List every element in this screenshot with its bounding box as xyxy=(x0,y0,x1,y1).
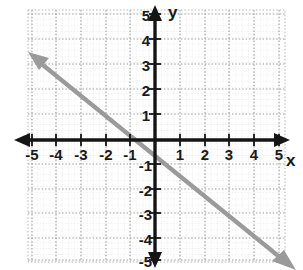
coordinate-plane-graph: -5 -4 -3 -2 -1 1 2 3 4 5 5 4 3 2 1 -1 -2… xyxy=(0,0,303,270)
y-tick-label-5: 5 xyxy=(142,8,150,23)
y-tick-label--4: -4 xyxy=(139,232,152,247)
graph-canvas xyxy=(0,0,303,270)
y-tick-label-4: 4 xyxy=(142,33,150,48)
x-tick-label-3: 3 xyxy=(225,147,233,162)
x-axis-label: x xyxy=(286,152,295,169)
y-tick-label-2: 2 xyxy=(142,83,150,98)
y-tick-label-3: 3 xyxy=(142,58,150,73)
x-axis-arrow-left xyxy=(14,133,30,147)
x-tick-label-4: 4 xyxy=(250,147,258,162)
x-tick-label--3: -3 xyxy=(74,147,87,162)
x-tick-label--1: -1 xyxy=(123,147,136,162)
y-axis-label: y xyxy=(168,4,177,21)
x-tick-label--2: -2 xyxy=(99,147,112,162)
x-tick-label-5: 5 xyxy=(275,147,283,162)
y-tick-label--1: -1 xyxy=(139,158,152,173)
y-tick-label--2: -2 xyxy=(139,183,152,198)
x-tick-label-2: 2 xyxy=(201,147,209,162)
x-tick-label-1: 1 xyxy=(176,147,184,162)
y-tick-label--3: -3 xyxy=(139,207,152,222)
x-tick-label--5: -5 xyxy=(25,147,38,162)
y-tick-label-1: 1 xyxy=(142,108,150,123)
y-tick-label--5: -5 xyxy=(139,254,152,269)
x-tick-label--4: -4 xyxy=(49,147,62,162)
